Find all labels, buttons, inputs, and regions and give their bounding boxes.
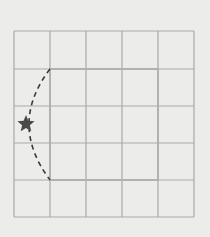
grid-lines: [14, 31, 194, 217]
dashed-rotation-arc: [29, 69, 50, 180]
highlighted-square: [50, 69, 158, 180]
grid-diagram: [0, 0, 210, 237]
star-icon: [17, 115, 34, 131]
